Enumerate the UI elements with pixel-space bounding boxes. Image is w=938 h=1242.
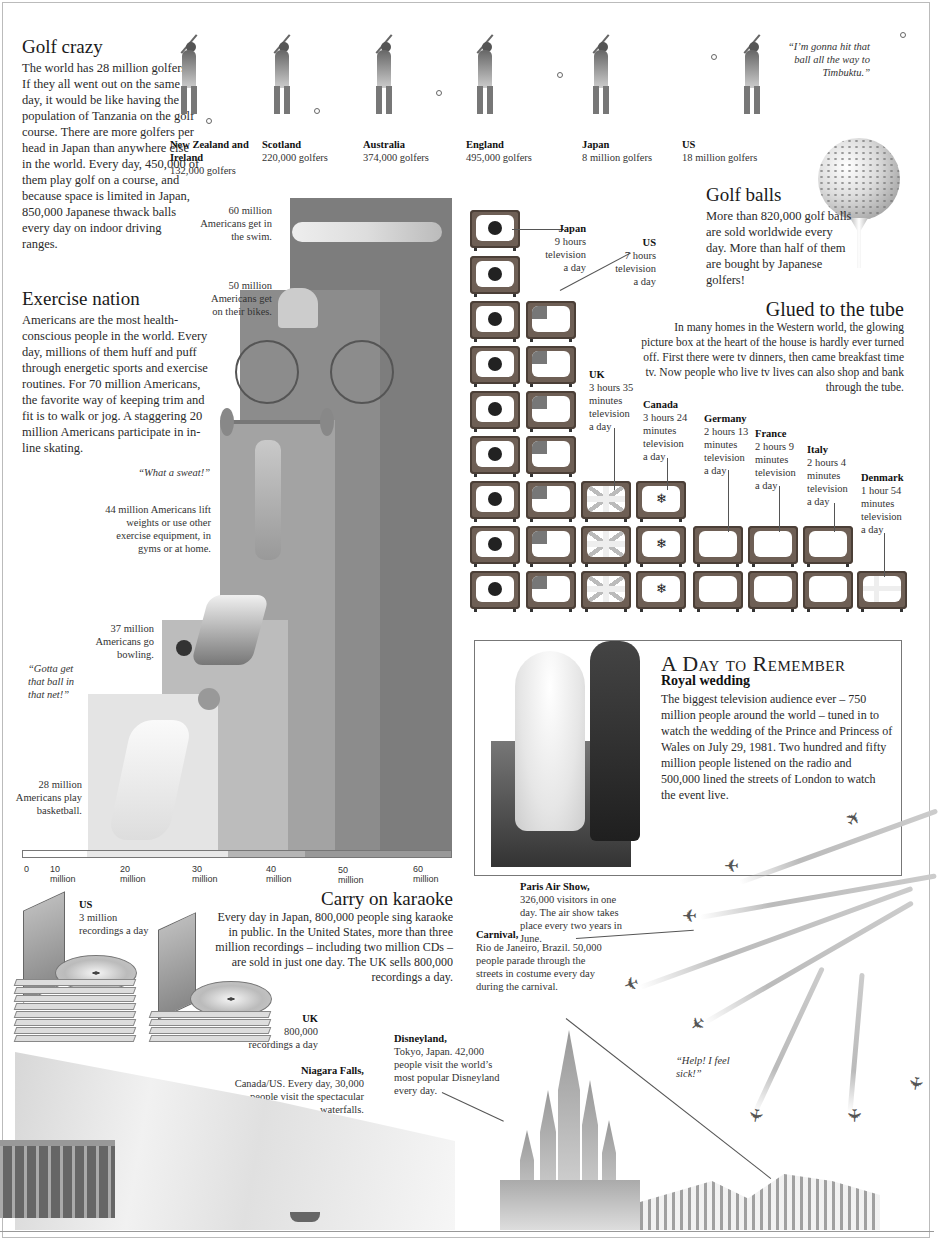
tv-unit: a day: [755, 479, 805, 492]
golfer-icon: [582, 40, 624, 115]
tv-hours: 7 hours: [598, 249, 656, 262]
leader-line: [728, 470, 729, 532]
tv-hours: 2 hours 13: [704, 425, 760, 438]
golf-ball-icon: [900, 32, 906, 38]
tv-unit: television: [704, 451, 760, 464]
tv-label-germany: Germany 2 hours 13 minutes television a …: [704, 412, 760, 477]
bowling-ball-icon: [176, 640, 192, 656]
royal-wedding-box: A Day to Remember Royal wedding The bigg…: [474, 640, 902, 876]
tv-unit: television: [589, 407, 645, 420]
recordings-value: 800,000: [230, 1025, 318, 1038]
plane-icon: ✈: [724, 854, 739, 876]
golf-country-australia: Australia 374,000 golfers: [363, 138, 458, 164]
tv-japan: [470, 526, 520, 564]
tv-us: [526, 571, 576, 609]
recordings-unit: recordings a day: [79, 924, 159, 937]
tv-unit: television: [598, 262, 656, 275]
tv-japan: [470, 301, 520, 339]
tv-label-italy: Italy 2 hours 4 minutes television a day: [807, 443, 857, 508]
tv-label-us: US 7 hours television a day: [598, 236, 656, 288]
disneyland-castle-illustration: [500, 1030, 640, 1230]
bride-illustration: [515, 651, 585, 831]
label-swim: 60 million Americans get in the swim.: [200, 204, 272, 243]
tv-unit: minutes: [643, 424, 699, 437]
leader-line: [779, 486, 780, 532]
tv-germany: [693, 526, 743, 564]
wedding-subtitle: Royal wedding: [661, 673, 750, 689]
event-title: Niagara Falls,: [222, 1064, 364, 1077]
golf-country-nz: New Zealand and Ireland 132,000 golfers: [170, 138, 260, 177]
country-name: Japan: [582, 138, 677, 151]
country-name: New Zealand and Ireland: [170, 138, 260, 164]
country-name: England: [466, 138, 561, 151]
tv-us: [526, 346, 576, 384]
country-name: US: [598, 236, 656, 249]
tv-hours: 2 hours 9: [755, 440, 805, 453]
axis-tick: 40 million: [266, 864, 292, 884]
tv-italy: [803, 526, 853, 564]
disneyland-label: Disneyland, Tokyo, Japan. 42,000 people …: [394, 1032, 509, 1097]
bike-wheel-icon: [235, 340, 299, 404]
event-title: Carnival,: [476, 928, 611, 941]
golfer-icon: [466, 40, 508, 115]
label-weights: 44 million Americans lift weights or use…: [100, 503, 211, 555]
bike-wheel-icon: [330, 340, 394, 404]
tv-unit: television: [807, 482, 857, 495]
country-name: Japan: [530, 222, 586, 235]
carnival-label: Carnival, Rio de Janeiro, Brazil. 50,000…: [476, 928, 611, 993]
leader-line: [884, 533, 885, 577]
country-name: Canada: [643, 398, 699, 411]
country-name: France: [755, 427, 805, 440]
wedding-body: The biggest television audience ever – 7…: [661, 691, 893, 803]
tv-body: In many homes in the Western world, the …: [640, 320, 904, 395]
tv-france: [748, 526, 798, 564]
tv-unit: a day: [807, 495, 857, 508]
tv-unit: minutes: [807, 469, 857, 482]
country-value: 220,000 golfers: [262, 151, 357, 164]
golfer-quote: “I’m gonna hit that ball all the way to …: [780, 40, 870, 79]
golf-country-scotland: Scotland 220,000 golfers: [262, 138, 357, 164]
weight-plate-icon: [220, 408, 234, 436]
tv-uk: [581, 571, 631, 609]
tv-germany: [693, 571, 743, 609]
exercise-title: Exercise nation: [22, 288, 140, 310]
tv-unit: a day: [589, 420, 645, 433]
tv-hours: 9 hours: [530, 235, 586, 248]
maple-leaf-icon: ❄: [656, 537, 667, 551]
x-axis: [22, 850, 452, 858]
tv-unit: minutes: [755, 453, 805, 466]
country-name: UK: [230, 1012, 318, 1025]
karaoke-us-label: US 3 million recordings a day: [79, 898, 159, 937]
tv-canada: ❄: [636, 481, 686, 519]
tv-label-france: France 2 hours 9 minutes television a da…: [755, 427, 805, 492]
tv-hours: 3 hours 24: [643, 411, 699, 424]
golf-ball-icon: [436, 90, 442, 96]
golfer-icon: [365, 40, 407, 115]
event-body: Tokyo, Japan. 42,000 people visit the wo…: [394, 1045, 509, 1097]
tv-japan: [470, 436, 520, 474]
tv-unit: minutes: [861, 497, 911, 510]
label-bike: 50 million Americans get on their bikes.: [200, 279, 272, 318]
weight-plate-icon: [320, 408, 334, 436]
tv-canada: ❄: [636, 526, 686, 564]
tv-unit: minutes: [704, 438, 760, 451]
golf-balls-body: More than 820,000 golf balls are sold wo…: [706, 208, 856, 288]
tv-label-canada: Canada 3 hours 24 minutes television a d…: [643, 398, 699, 463]
boat-icon: [290, 1212, 320, 1222]
label-basketball: 28 million Americans play basketball.: [10, 778, 82, 817]
tv-japan: [470, 571, 520, 609]
country-name: US: [79, 898, 159, 911]
leader-line: [614, 428, 615, 490]
tv-japan: [470, 481, 520, 519]
axis-tick: 20 million: [120, 864, 146, 884]
country-value: 495,000 golfers: [466, 151, 561, 164]
tv-title: Glued to the tube: [640, 298, 904, 320]
quote-net: “Gotta get that ball in that net!”: [28, 662, 78, 701]
tv-unit: a day: [598, 275, 656, 288]
groom-illustration: [590, 641, 640, 841]
country-name: Australia: [363, 138, 458, 151]
axis-tick: 50 million: [338, 865, 364, 885]
tv-hours: 2 hours 4: [807, 456, 857, 469]
country-name: Denmark: [861, 471, 911, 484]
axis-tick: 0: [24, 864, 29, 874]
